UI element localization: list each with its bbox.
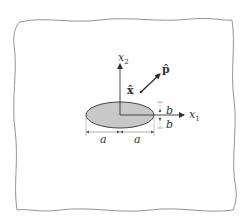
a-right-label: a	[134, 133, 141, 146]
p-hat-label: p̂	[162, 63, 170, 76]
b-arrow-up	[159, 109, 162, 112]
ellipse-diagram: x2 x1 x̂ p̂ b b a a	[0, 0, 244, 223]
x2-axis-label: x2	[118, 51, 129, 66]
x1-axis-label: x1	[189, 108, 200, 123]
a-left-label: a	[100, 133, 107, 146]
b-arrow-down	[159, 118, 162, 121]
a-arrow-left-end	[86, 131, 89, 134]
a-arrow-center-left	[117, 131, 120, 134]
a-arrow-right-end	[151, 131, 154, 134]
b-top-label: b	[166, 104, 173, 117]
a-arrow-center-right	[120, 131, 123, 134]
x-hat-point	[140, 91, 143, 94]
b-bottom-label: b	[166, 118, 173, 131]
x-hat-label: x̂	[127, 84, 134, 97]
p-hat-vector	[141, 74, 160, 92]
